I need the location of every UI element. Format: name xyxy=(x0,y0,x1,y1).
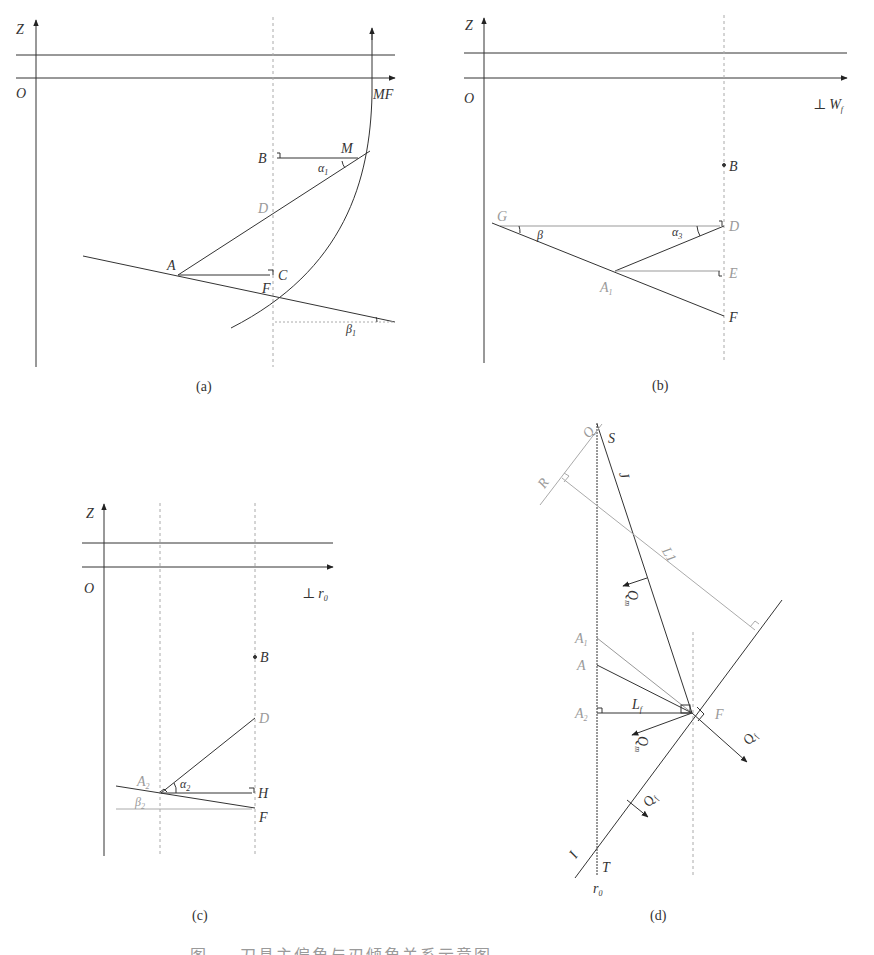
right-angle-B xyxy=(277,153,280,158)
z-label: Z xyxy=(86,506,94,521)
point-A1: A1 xyxy=(599,280,613,297)
label-Qm-upper: Qm xyxy=(623,590,640,606)
label-Qm-lower: Qm xyxy=(633,736,650,752)
vector-Qm-lower xyxy=(632,713,692,735)
mf-curve xyxy=(231,30,372,328)
angle-arc-alpha3 xyxy=(697,226,700,236)
point-A: A xyxy=(576,658,586,673)
angle-beta1: β1 xyxy=(345,322,356,338)
point-F: F xyxy=(261,281,271,296)
point-D: D xyxy=(257,201,268,216)
point-G: G xyxy=(497,209,507,224)
line-L1 xyxy=(562,478,755,630)
line-through-A-F xyxy=(83,256,395,322)
point-A2: A2 xyxy=(136,774,150,791)
origin-label: O xyxy=(84,581,94,596)
origin-label: O xyxy=(464,91,474,106)
angle-alpha2: α2 xyxy=(180,777,190,793)
point-F: F xyxy=(714,707,724,722)
segment-AM xyxy=(178,151,370,275)
right-angle-E xyxy=(719,271,722,276)
panel-a xyxy=(16,17,395,367)
right-angle-C xyxy=(268,270,273,275)
point-F: F xyxy=(728,310,738,325)
sublabel-c: (c) xyxy=(192,908,208,924)
panel-c-labels: Z O ⊥r0 B D A2 α2 H β2 F (c) xyxy=(84,506,328,924)
label-Qf-lower: Qf xyxy=(640,790,662,811)
panel-d xyxy=(540,423,782,878)
perp-r0-label: ⊥r0 xyxy=(302,586,328,603)
label-r0: r0 xyxy=(593,881,602,898)
right-angle-A2 xyxy=(597,708,602,713)
right-angle-H xyxy=(249,788,254,793)
point-M: M xyxy=(340,141,354,156)
point-S: S xyxy=(608,431,615,446)
panel-c xyxy=(82,503,333,856)
sublabel-a: (a) xyxy=(196,379,212,395)
segment-A1D xyxy=(615,226,724,271)
line-G-F xyxy=(492,223,724,316)
panel-b-labels: Z O ⊥Wf B G β α3 D E A1 F (b) xyxy=(464,18,845,394)
origin-label: O xyxy=(16,86,26,101)
diagram-figure: Z O MF M B α1 D A C F β1 (a) Z O ⊥Wf B G… xyxy=(0,0,874,955)
point-A: A xyxy=(166,258,176,273)
angle-beta: β xyxy=(536,228,543,242)
figure-caption-partial: 图 — 刀具主偏角与刃倾角关系示意图 xyxy=(190,944,670,955)
angle-arc-alpha2 xyxy=(174,783,176,793)
sublabel-d: (d) xyxy=(650,908,667,924)
point-F: F xyxy=(258,810,268,825)
point-T: T xyxy=(602,860,611,875)
perp-wf-label: ⊥Wf xyxy=(813,97,845,114)
label-Lf: Lf xyxy=(631,697,644,714)
point-H: H xyxy=(257,786,269,801)
angle-alpha3: α3 xyxy=(672,225,682,241)
segment-A1F xyxy=(597,638,692,713)
point-E: E xyxy=(728,266,738,281)
point-A1: A1 xyxy=(574,631,588,648)
vector-Qm-upper xyxy=(623,578,647,586)
right-angle-L1 xyxy=(750,621,759,627)
mf-label: MF xyxy=(372,87,394,102)
point-C: C xyxy=(278,268,288,283)
point-B-dot xyxy=(723,164,726,167)
point-A2: A2 xyxy=(574,706,588,723)
point-B: B xyxy=(729,159,738,174)
angle-alpha1: α1 xyxy=(318,161,328,177)
right-angle-D xyxy=(719,221,722,226)
segment-A2D xyxy=(161,718,255,793)
segment-SF xyxy=(597,424,692,713)
label-L1: L1 xyxy=(658,544,679,565)
point-B: B xyxy=(260,650,269,665)
point-D: D xyxy=(728,219,739,234)
diagram-canvas: Z O MF M B α1 D A C F β1 (a) Z O ⊥Wf B G… xyxy=(0,0,874,955)
segment-AF xyxy=(597,665,692,713)
angle-arc-beta xyxy=(519,226,520,233)
angle-arc-alpha1 xyxy=(342,161,345,168)
point-D: D xyxy=(258,711,269,726)
right-angle-R xyxy=(564,473,569,482)
point-B: B xyxy=(258,151,267,166)
point-Q: Q xyxy=(579,424,597,441)
label-Qf-right: Qf xyxy=(740,728,762,749)
point-R: R xyxy=(534,475,552,492)
z-label: Z xyxy=(16,22,24,37)
label-J: J xyxy=(616,470,632,481)
sublabel-b: (b) xyxy=(652,378,669,394)
panel-b xyxy=(464,15,847,363)
point-B-dot xyxy=(254,656,257,659)
z-label: Z xyxy=(465,18,473,33)
label-I: I xyxy=(565,847,581,861)
angle-beta2: β2 xyxy=(134,795,145,811)
